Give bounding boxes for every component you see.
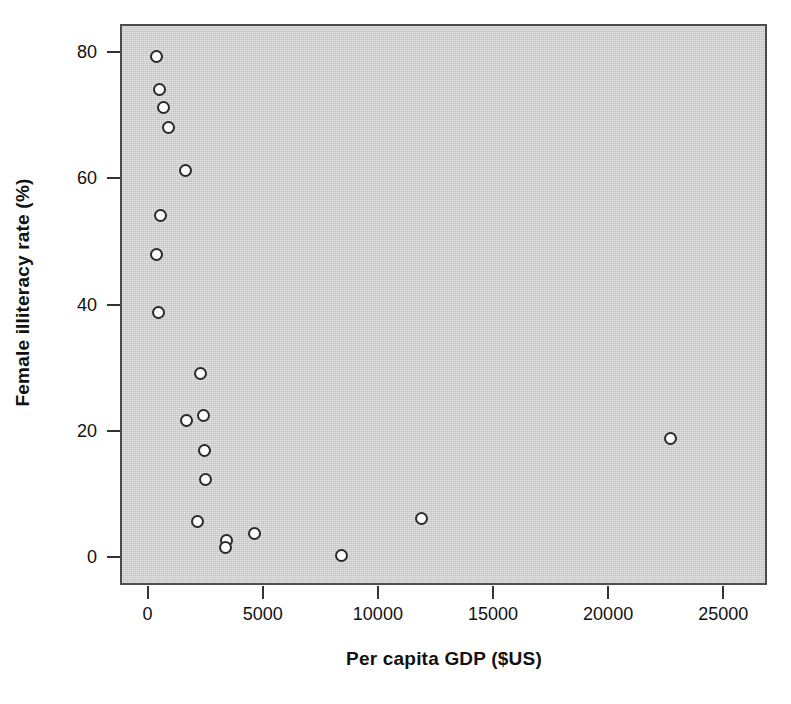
data-point [198,444,211,457]
x-tick-label: 10000 [353,604,403,624]
panel-texture [122,26,765,583]
y-axis-title: Female illiteracy rate (%) [4,0,42,585]
y-tick-label: 60 [57,168,97,189]
data-point [157,101,170,114]
data-point [415,512,428,525]
y-tick-label: 0 [57,547,97,568]
y-tick-label: 80 [57,42,97,63]
x-tick-label: 25000 [698,604,748,624]
y-tick-label: 40 [57,295,97,316]
y-tick-mark [107,430,120,432]
y-tick-mark [107,556,120,558]
plot-panel [120,24,767,585]
data-point [150,50,163,63]
x-tick-mark [492,586,494,599]
y-tick-label-wrap: 60 [45,168,97,188]
x-tick-mark [377,586,379,599]
x-tick-label-wrap: 15000 [433,604,553,625]
x-tick-label-wrap: 20000 [548,604,668,625]
data-point [197,409,210,422]
x-tick-label-wrap: 10000 [318,604,438,625]
data-point [199,473,212,486]
x-tick-mark [147,586,149,599]
data-point [248,527,261,540]
data-point [152,306,165,319]
x-tick-label: 20000 [583,604,633,624]
data-point [219,541,232,554]
scatter-plot-figure: Female illiteracy rate (%) 020406080 050… [0,0,791,704]
data-point [179,164,192,177]
y-tick-mark [107,177,120,179]
x-tick-mark [262,586,264,599]
data-point [335,549,348,562]
y-tick-mark [107,51,120,53]
x-tick-label-wrap: 5000 [203,604,323,625]
x-tick-label-wrap: 0 [88,604,208,625]
y-tick-label-wrap: 80 [45,42,97,62]
y-tick-label-wrap: 20 [45,421,97,441]
y-tick-label-wrap: 40 [45,295,97,315]
data-point [150,248,163,261]
data-point [154,209,167,222]
data-point [162,121,175,134]
y-tick-label: 20 [57,421,97,442]
data-point [153,83,166,96]
data-point [180,414,193,427]
data-point [664,432,677,445]
x-tick-mark [607,586,609,599]
data-point [194,367,207,380]
y-tick-label-wrap: 0 [45,547,97,567]
y-tick-mark [107,304,120,306]
x-tick-label: 15000 [468,604,518,624]
data-point [191,515,204,528]
x-axis-title: Per capita GDP ($US) [120,648,768,670]
x-tick-mark [722,586,724,599]
x-tick-label: 0 [143,604,153,624]
x-tick-label: 5000 [243,604,283,624]
x-tick-label-wrap: 25000 [663,604,783,625]
